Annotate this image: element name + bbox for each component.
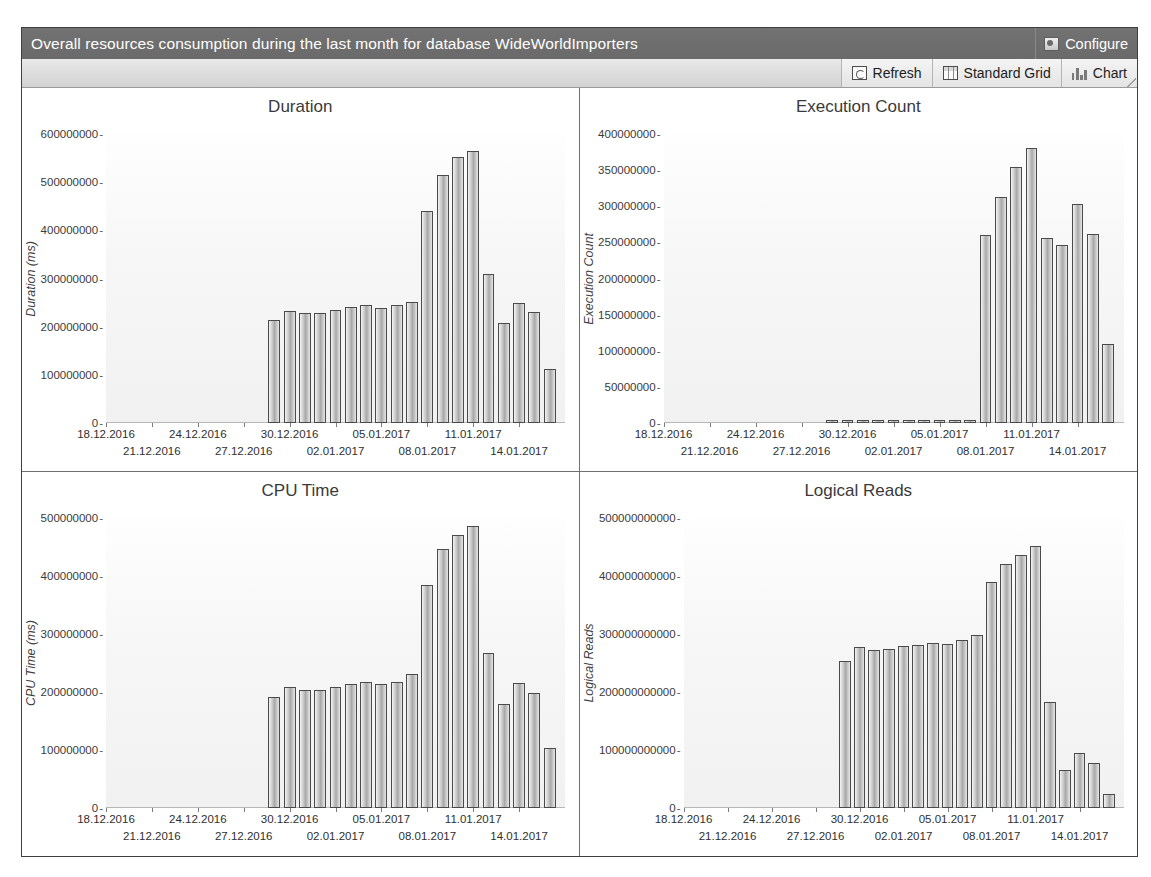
bar[interactable] <box>1015 555 1026 808</box>
refresh-button[interactable]: Refresh <box>841 59 932 87</box>
bar[interactable] <box>498 323 510 423</box>
bar[interactable] <box>513 683 525 808</box>
bar[interactable] <box>528 693 540 808</box>
bar[interactable] <box>1074 753 1085 808</box>
bar[interactable] <box>498 704 510 808</box>
bar[interactable] <box>437 549 449 808</box>
bar[interactable] <box>1087 234 1099 423</box>
chart-panel-logical-reads[interactable]: Logical Reads Logical Reads0-10000000000… <box>580 472 1138 856</box>
bar[interactable] <box>903 420 915 423</box>
bar[interactable] <box>883 649 894 808</box>
toolbar-overflow-handle[interactable] <box>1127 78 1136 87</box>
bar[interactable] <box>1072 204 1084 423</box>
bar[interactable] <box>1041 238 1053 423</box>
bar[interactable] <box>1044 702 1055 808</box>
bar[interactable] <box>391 682 403 808</box>
bar[interactable] <box>375 308 387 423</box>
bar[interactable] <box>857 420 869 423</box>
bar[interactable] <box>437 175 449 423</box>
bar[interactable] <box>956 640 967 808</box>
bar[interactable] <box>467 151 479 423</box>
bar[interactable] <box>839 661 850 808</box>
bar[interactable] <box>268 697 280 808</box>
bar[interactable] <box>980 235 992 423</box>
bar[interactable] <box>299 690 311 808</box>
bar[interactable] <box>1059 770 1070 808</box>
x-axis-tick-label: 27.12.2016 <box>787 830 845 842</box>
bar[interactable] <box>927 643 938 808</box>
bar[interactable] <box>421 585 433 808</box>
y-axis-tick-label: 200000000- <box>41 321 103 333</box>
bar[interactable] <box>299 313 311 423</box>
bar[interactable] <box>483 653 495 808</box>
bar[interactable] <box>1056 245 1068 423</box>
chart-panel-execution-count[interactable]: Execution Count Execution Count0-5000000… <box>580 88 1138 472</box>
bar[interactable] <box>268 320 280 423</box>
bar[interactable] <box>452 157 464 423</box>
bar[interactable] <box>391 305 403 423</box>
x-axis-tick-label: 14.01.2017 <box>1049 445 1107 457</box>
bar-series <box>684 518 1124 808</box>
bar[interactable] <box>872 420 884 423</box>
y-axis-tick-label: 100000000- <box>41 369 103 381</box>
bar[interactable] <box>452 535 464 808</box>
y-axis-tick-label: 350000000- <box>598 164 660 176</box>
bar[interactable] <box>986 582 997 808</box>
bar[interactable] <box>826 420 838 423</box>
chart-title: Logical Reads <box>580 472 1138 501</box>
bar[interactable] <box>949 420 961 423</box>
chart-panel-duration[interactable]: Duration Duration (ms)0-100000000-200000… <box>22 88 580 472</box>
x-axis-tick-label: 11.01.2017 <box>445 428 502 440</box>
bar[interactable] <box>918 420 930 423</box>
bar[interactable] <box>971 635 982 808</box>
bar[interactable] <box>912 645 923 808</box>
bar[interactable] <box>330 310 342 423</box>
chart-button[interactable]: Chart <box>1061 59 1137 87</box>
bar[interactable] <box>483 274 495 423</box>
bar[interactable] <box>1026 148 1038 423</box>
standard-grid-button[interactable]: Standard Grid <box>932 59 1061 87</box>
bar[interactable] <box>406 674 418 808</box>
bar[interactable] <box>330 687 342 808</box>
bar[interactable] <box>314 313 326 423</box>
bar[interactable] <box>544 369 556 423</box>
bar[interactable] <box>513 303 525 423</box>
bar[interactable] <box>467 526 479 808</box>
y-axis-ticks: 0-100000000-200000000-300000000-40000000… <box>22 134 103 423</box>
bar[interactable] <box>544 748 556 808</box>
y-axis-tick-label: 100000000- <box>41 744 103 756</box>
bar[interactable] <box>1030 546 1041 808</box>
bar[interactable] <box>898 646 909 808</box>
x-axis-tick-label: 27.12.2016 <box>773 445 831 457</box>
bar[interactable] <box>1000 564 1011 808</box>
y-axis-tick-label: 300000000- <box>41 628 103 640</box>
bar[interactable] <box>1103 794 1114 808</box>
bar[interactable] <box>421 211 433 423</box>
bar[interactable] <box>360 305 372 423</box>
bar[interactable] <box>345 684 357 808</box>
x-axis-tick-label: 14.01.2017 <box>1051 830 1109 842</box>
bar[interactable] <box>375 684 387 808</box>
bar[interactable] <box>528 312 540 423</box>
x-axis-tick <box>1032 423 1033 427</box>
bar[interactable] <box>1010 167 1022 423</box>
bar[interactable] <box>284 311 296 423</box>
configure-button[interactable]: Configure <box>1035 28 1137 59</box>
bar[interactable] <box>360 682 372 808</box>
bar[interactable] <box>868 650 879 808</box>
bar[interactable] <box>964 420 976 423</box>
x-axis-tick-label: 11.01.2017 <box>445 813 502 825</box>
x-axis-tick-label: 18.12.2016 <box>77 813 135 825</box>
bar[interactable] <box>284 687 296 808</box>
bar[interactable] <box>406 302 418 423</box>
bar[interactable] <box>1102 344 1114 423</box>
x-axis-tick <box>728 808 729 812</box>
bar[interactable] <box>854 647 865 808</box>
chart-panel-cpu-time[interactable]: CPU Time CPU Time (ms)0-100000000-200000… <box>22 472 580 856</box>
bar[interactable] <box>995 197 1007 423</box>
bar[interactable] <box>942 644 953 808</box>
bar[interactable] <box>345 307 357 423</box>
bar[interactable] <box>1088 763 1099 808</box>
x-axis-tick <box>772 808 773 812</box>
bar[interactable] <box>314 690 326 808</box>
